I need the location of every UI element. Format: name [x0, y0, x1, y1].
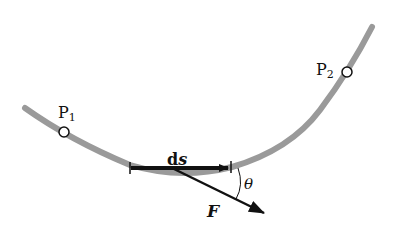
point-p2-marker [342, 67, 352, 77]
point-p1-marker [59, 127, 69, 137]
curved-path [25, 27, 372, 173]
label-ds: ds [167, 150, 187, 169]
label-p1: P1 [58, 103, 76, 124]
angle-arc [236, 168, 241, 199]
label-force: F [207, 201, 219, 221]
label-p2: P2 [316, 60, 334, 81]
label-theta: θ [244, 175, 253, 193]
